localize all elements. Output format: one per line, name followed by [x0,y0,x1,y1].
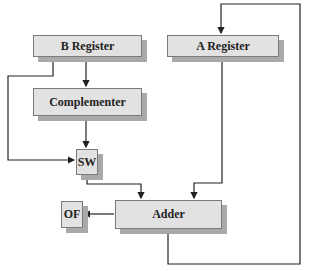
b-register-label: B Register [61,39,115,54]
of-label: OF [64,207,81,222]
sw-label: SW [78,155,97,170]
b-register-block: B Register [33,35,142,57]
adder-block: Adder [115,200,222,229]
wire-sw-to-adder [87,175,141,198]
adder-label: Adder [152,207,185,222]
wire-a-to-adder [194,57,222,198]
a-register-label: A Register [196,39,250,54]
complementer-label: Complementer [49,95,126,110]
a-register-block: A Register [167,35,279,57]
complementer-block: Complementer [33,88,142,116]
sw-block: SW [76,149,98,175]
of-block: OF [61,201,83,228]
